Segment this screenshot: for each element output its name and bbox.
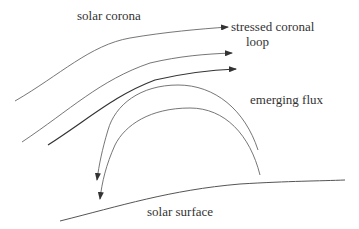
label-stressed-coronal: stressed coronal xyxy=(231,20,314,34)
label-emerging-flux: emerging flux xyxy=(250,93,323,107)
field-line-3 xyxy=(48,69,236,145)
diagram-canvas xyxy=(0,0,359,229)
flux-arch-inner xyxy=(100,108,260,199)
label-solar-surface: solar surface xyxy=(147,205,213,219)
label-loop: loop xyxy=(246,35,269,49)
field-line-1 xyxy=(15,27,228,101)
flux-arch-outer xyxy=(97,85,258,180)
label-solar-corona: solar corona xyxy=(77,9,141,23)
